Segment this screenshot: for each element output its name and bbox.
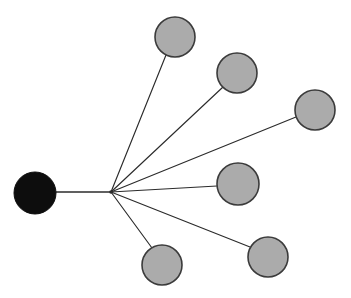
leaf-node-far-right[interactable] [295,90,335,130]
leaf-node-upper-right[interactable] [217,53,257,93]
leaf-node-lower-right[interactable] [248,237,288,277]
edge-junction [109,190,113,194]
leaf-node-top[interactable] [155,17,195,57]
center-node[interactable] [14,172,56,214]
junction-layer [109,190,113,194]
leaf-node-middle-right[interactable] [217,163,259,205]
star-graph-svg [0,0,351,298]
diagram-canvas [0,0,351,298]
leaf-node-bottom[interactable] [142,245,182,285]
